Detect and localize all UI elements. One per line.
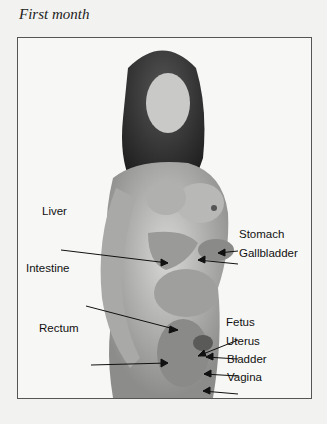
label-fetus: Fetus <box>226 316 255 328</box>
label-stomach: Stomach <box>239 228 284 240</box>
label-gallbladder: Gallbladder <box>239 247 298 259</box>
anatomy-figure-frame: Liver Intestine Rectum Stomach Gallbladd… <box>17 37 312 399</box>
label-rectum: Rectum <box>39 322 79 334</box>
label-vagina: Vagina <box>227 371 262 383</box>
label-bladder: Bladder <box>227 353 267 365</box>
figure-title: First month <box>19 6 89 23</box>
female-anatomy-illustration <box>18 38 311 398</box>
label-liver: Liver <box>42 205 67 217</box>
label-uterus: Uterus <box>226 335 260 347</box>
label-intestine: Intestine <box>26 262 69 274</box>
